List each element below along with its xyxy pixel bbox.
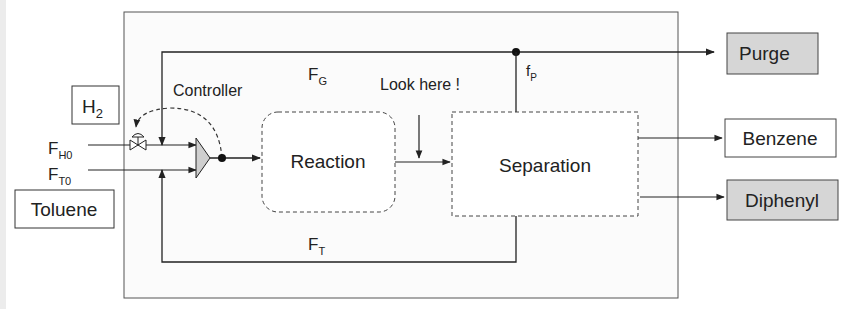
toluene-label: Toluene: [31, 199, 98, 220]
benzene-output-box: Benzene: [725, 119, 836, 157]
reaction-unit: Reaction: [262, 112, 395, 212]
reaction-label: Reaction: [291, 151, 366, 172]
hydrogen-input-box: H2: [72, 86, 119, 124]
measurement-node: [218, 154, 226, 162]
diphenyl-label: Diphenyl: [745, 190, 819, 211]
toluene-input-box: Toluene: [15, 190, 114, 228]
look-here-label: Look here !: [380, 76, 460, 93]
purge-label: Purge: [739, 43, 790, 64]
benzene-label: Benzene: [742, 128, 817, 149]
controller-label: Controller: [173, 82, 243, 99]
stream-label-ft0: FT0: [48, 165, 71, 187]
diphenyl-output-box: Diphenyl: [727, 180, 838, 220]
separation-label: Separation: [499, 155, 591, 176]
hydrogen-subscript: 2: [96, 106, 103, 121]
hydrogen-label: H: [82, 96, 96, 117]
separation-unit: Separation: [452, 112, 638, 216]
process-flow-diagram: H2 Toluene FH0 FT0 Controller FG fP FT R…: [0, 0, 847, 309]
purge-output-box: Purge: [727, 33, 818, 74]
stream-label-fh0: FH0: [48, 139, 72, 161]
